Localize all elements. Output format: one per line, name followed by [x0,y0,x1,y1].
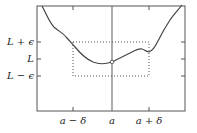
open-point-marker [110,60,114,64]
label-a-minus-delta: a − δ [60,115,87,126]
epsilon-delta-diagram: L + ϵ L L − ϵ a − δ a a + δ [0,0,197,133]
plot-frame [37,6,185,111]
label-a: a [109,115,115,126]
label-L-plus-epsilon: L + ϵ [6,36,34,47]
epsilon-delta-box [73,42,149,76]
label-L-minus-epsilon: L − ϵ [6,70,34,81]
label-L: L [26,53,34,64]
label-a-plus-delta: a + δ [136,115,163,126]
